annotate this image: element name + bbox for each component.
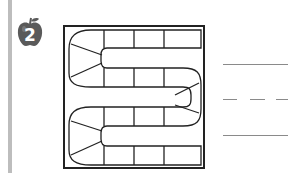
answer-line-2-dashed-3 — [276, 99, 288, 100]
serpentine-path-diagram — [63, 25, 205, 169]
answer-line-1 — [223, 64, 288, 65]
answer-line-2-dashed-1 — [223, 99, 237, 100]
answer-line-2-dashed-2 — [250, 99, 265, 100]
left-margin-bar — [8, 0, 12, 173]
exercise-number: 2 — [16, 25, 44, 45]
game-board — [63, 25, 205, 169]
exercise-number-badge: 2 — [16, 16, 44, 48]
answer-line-3 — [223, 135, 288, 136]
